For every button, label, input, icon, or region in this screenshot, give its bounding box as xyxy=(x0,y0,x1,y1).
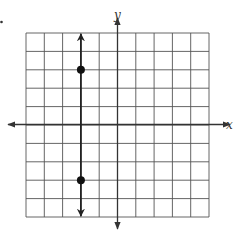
y-axis-label: y xyxy=(113,8,121,22)
data-point xyxy=(77,176,85,184)
x-axis-label: x xyxy=(226,118,233,132)
question-marker xyxy=(0,21,3,24)
data-point xyxy=(77,66,85,74)
coordinate-plane: x y xyxy=(0,0,243,237)
